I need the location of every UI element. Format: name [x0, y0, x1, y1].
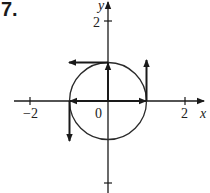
- x-axis-label: x: [199, 106, 207, 121]
- y-tick-label-2: 2: [93, 15, 100, 30]
- origin-label: 0: [95, 106, 102, 121]
- x-tick-label-2: 2: [181, 106, 188, 121]
- x-tick-label-neg2: −2: [23, 106, 38, 121]
- diagram-canvas: −2 2 x y 2 0: [0, 0, 210, 193]
- y-axis-label: y: [96, 0, 105, 13]
